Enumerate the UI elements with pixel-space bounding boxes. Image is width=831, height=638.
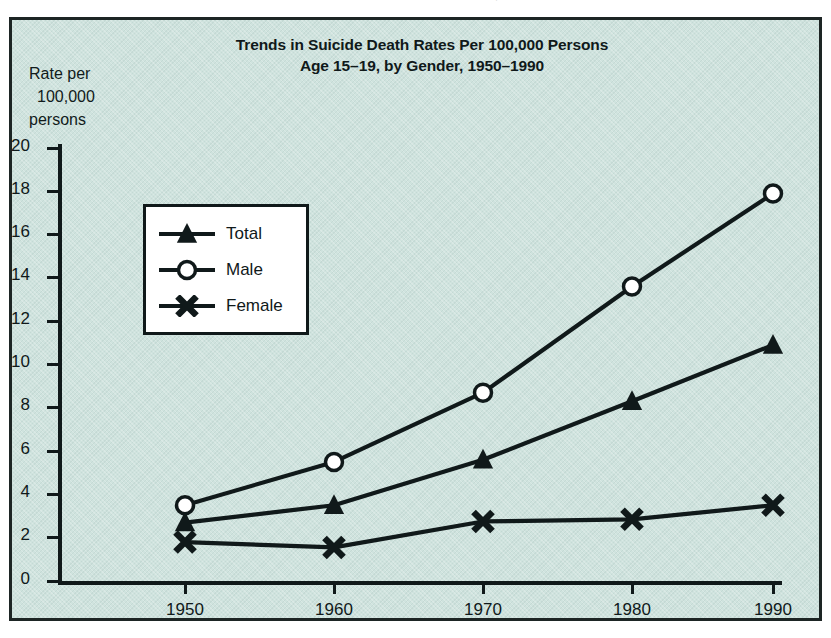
x-tick-1990 [772,581,775,594]
y-tick-20: 20 [47,147,60,150]
y-axis-caption-line-3: persons [25,108,115,131]
y-axis-caption-line-2: 100,000 [25,85,115,108]
y-tick-label-4: 4 [21,482,30,502]
open-circle-marker [157,259,217,281]
y-tick-label-14: 14 [11,265,30,285]
filled-triangle-marker [157,223,217,245]
chart-subtitle: Age 15–19, by Gender, 1950–1990 [122,55,722,76]
scan-ghost-text: Trends in Suicide Death Rates Per 100,00… [0,0,831,2]
x-tick-label-1960: 1960 [315,600,353,620]
legend-label: Female [226,296,283,316]
y-tick-18: 18 [47,190,60,193]
y-tick-label-8: 8 [21,395,30,415]
y-axis-caption-line-1: Rate per [25,62,115,85]
y-tick-12: 12 [47,320,60,323]
y-tick-label-20: 20 [11,136,30,156]
circle-marker [179,261,196,278]
series-female [176,496,783,557]
x-tick-1980 [631,581,634,594]
y-tick-label-18: 18 [11,179,30,199]
series-total [175,334,783,531]
y-tick-label-10: 10 [11,352,30,372]
x-tick-label-1950: 1950 [166,600,204,620]
y-tick-4: 4 [47,493,60,496]
x-tick-label-1980: 1980 [613,600,651,620]
legend-label: Male [226,260,263,280]
circle-marker [765,185,782,202]
circle-marker [624,278,641,295]
circle-marker [475,384,492,401]
y-axis-caption: Rate per 100,000 persons [25,62,115,131]
legend-item-total[interactable]: Total [146,216,306,252]
y-tick-6: 6 [47,450,60,453]
y-tick-2: 2 [47,536,60,539]
legend-label: Total [226,224,262,244]
y-tick-0: 0 [47,580,60,583]
chart-panel: Trends in Suicide Death Rates Per 100,00… [9,17,822,621]
x-tick-label-1990: 1990 [754,600,792,620]
circle-marker [326,453,343,470]
y-tick-label-2: 2 [21,525,30,545]
circle-marker [177,497,194,514]
y-tick-10: 10 [47,363,60,366]
y-tick-label-0: 0 [21,569,30,589]
scan-artifact-strip: Trends in Suicide Death Rates Per 100,00… [0,0,831,17]
y-tick-label-12: 12 [11,309,30,329]
triangle-marker [763,334,783,354]
legend-item-male[interactable]: Male [146,252,306,288]
y-tick-8: 8 [47,406,60,409]
y-tick-16: 16 [47,233,60,236]
y-tick-label-16: 16 [11,222,30,242]
chart-legend: TotalMaleFemale [143,204,309,335]
cross-x-marker [157,295,217,317]
legend-item-female[interactable]: Female [146,288,306,324]
y-tick-14: 14 [47,276,60,279]
chart-title-block: Trends in Suicide Death Rates Per 100,00… [122,34,722,76]
x-tick-1960 [333,581,336,594]
chart-title: Trends in Suicide Death Rates Per 100,00… [122,34,722,55]
x-tick-label-1970: 1970 [464,600,502,620]
x-axis-line [58,581,782,585]
x-tick-1950 [184,581,187,594]
x-tick-1970 [482,581,485,594]
y-tick-label-6: 6 [21,439,30,459]
